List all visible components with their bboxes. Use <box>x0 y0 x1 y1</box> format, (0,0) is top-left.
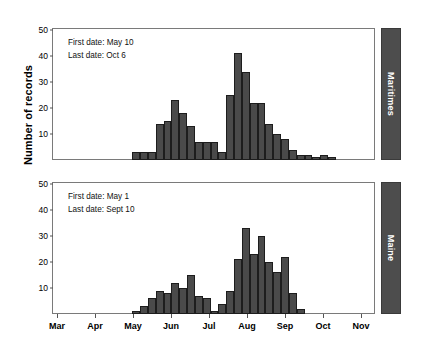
plot-area-maine: 01020304050 <box>52 182 375 314</box>
x-tick-label: Jul <box>202 321 215 331</box>
x-tick-mark <box>95 314 96 318</box>
panel-maine: 01020304050 First date: May 1 Last date:… <box>52 182 377 316</box>
annotation-last-date-maritimes: Last date: Oct 6 <box>68 51 126 60</box>
bar <box>179 288 187 314</box>
x-axis: MarAprMayJunJulAugSepOctNov <box>52 314 377 342</box>
y-tick-mark <box>50 184 54 185</box>
bar <box>132 152 140 160</box>
x-tick-mark <box>285 314 286 318</box>
bar <box>226 95 234 160</box>
bar <box>312 157 320 160</box>
panel-strip-maine: Maine <box>381 182 401 314</box>
bar <box>281 139 289 160</box>
bar <box>234 53 242 160</box>
x-tick-mark <box>133 314 134 318</box>
figure: Number of records 01020304050 First date… <box>0 0 432 345</box>
bar <box>164 293 172 314</box>
bar <box>156 291 164 314</box>
bar <box>242 72 250 160</box>
bar <box>234 259 242 314</box>
panel-strip-label-maine: Maine <box>386 235 396 262</box>
y-tick-mark <box>50 210 54 211</box>
bar <box>148 298 156 314</box>
bar <box>171 100 179 160</box>
y-tick-mark <box>50 56 54 57</box>
bar <box>281 257 289 314</box>
x-tick-label: Oct <box>315 321 330 331</box>
x-tick-label: Mar <box>49 321 65 331</box>
panel-strip-maritimes: Maritimes <box>381 28 401 160</box>
bar <box>148 152 156 160</box>
panel-strip-label-maritimes: Maritimes <box>386 72 396 116</box>
annotation-first-date-maine: First date: May 1 <box>68 192 129 201</box>
bars-maine <box>54 184 375 314</box>
plot-area-maritimes: 01020304050 <box>52 28 375 160</box>
bar <box>195 296 203 314</box>
y-tick-mark <box>50 262 54 263</box>
bar <box>156 124 164 160</box>
bar <box>195 142 203 160</box>
x-tick-label: May <box>124 321 142 331</box>
x-tick-mark <box>57 314 58 318</box>
bar <box>187 126 195 160</box>
y-tick-mark <box>50 30 54 31</box>
y-tick-mark <box>50 236 54 237</box>
bar <box>203 298 211 314</box>
bar <box>226 291 234 314</box>
bar <box>164 121 172 160</box>
annotation-last-date-maine: Last date: Sept 10 <box>68 205 134 214</box>
bar <box>250 254 258 314</box>
bar <box>273 134 281 160</box>
bar <box>140 306 148 314</box>
bar <box>297 155 305 160</box>
bar <box>289 293 297 314</box>
x-tick-mark <box>247 314 248 318</box>
y-axis-title: Number of records <box>22 35 34 195</box>
panel-maritimes: 01020304050 First date: May 10 Last date… <box>52 28 377 162</box>
bar <box>250 103 258 160</box>
x-tick-mark <box>171 314 172 318</box>
annotation-first-date-maritimes: First date: May 10 <box>68 38 134 47</box>
bar <box>273 272 281 314</box>
bar <box>328 157 336 160</box>
bar <box>171 283 179 314</box>
bar <box>218 152 226 160</box>
y-tick-mark <box>50 134 54 135</box>
bars-maritimes <box>54 30 375 160</box>
x-tick-mark <box>361 314 362 318</box>
x-tick-mark <box>323 314 324 318</box>
x-tick-label: Apr <box>87 321 103 331</box>
x-tick-mark <box>209 314 210 318</box>
y-tick-mark <box>50 288 54 289</box>
bar <box>140 152 148 160</box>
bar <box>320 155 328 160</box>
bar <box>242 228 250 314</box>
bar <box>265 262 273 314</box>
x-tick-label: Nov <box>352 321 369 331</box>
bar <box>258 236 266 314</box>
bar <box>305 155 313 160</box>
x-tick-label: Jun <box>163 321 179 331</box>
bar <box>179 113 187 160</box>
bar <box>265 124 273 160</box>
bar <box>187 275 195 314</box>
bar <box>203 142 211 160</box>
bar <box>218 304 226 314</box>
x-tick-label: Aug <box>238 321 256 331</box>
x-tick-label: Sep <box>277 321 294 331</box>
bar <box>211 142 219 160</box>
bar <box>258 103 266 160</box>
y-tick-mark <box>50 82 54 83</box>
bar <box>289 150 297 160</box>
y-tick-mark <box>50 108 54 109</box>
